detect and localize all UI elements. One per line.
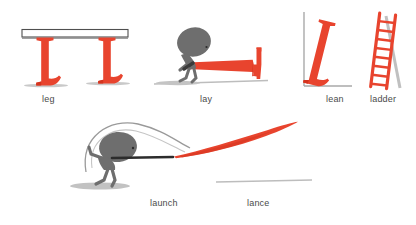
panel-lay: lay (140, 0, 286, 110)
caption-launch: launch (150, 198, 178, 208)
panel-launch-lance: launch lance (40, 110, 416, 225)
panel-lean: lean (286, 0, 356, 110)
caption-lay: lay (200, 94, 212, 104)
lean-illustration (286, 0, 356, 110)
letter-l-leg-left (36, 38, 61, 86)
letter-l-leaning (303, 19, 343, 88)
illustration-canvas: leg (0, 0, 416, 225)
panel-leg: leg (0, 0, 140, 110)
launch-lance-illustration (40, 110, 416, 225)
caption-lance: lance (247, 198, 270, 208)
lay-illustration (140, 0, 286, 110)
caption-leg: leg (42, 94, 55, 104)
letter-l-leg-right (98, 38, 123, 84)
tabletop-icon (22, 30, 128, 39)
lance-ground-line (216, 180, 312, 182)
ladder-icon (371, 13, 396, 88)
figure-pushing-icon (174, 24, 213, 82)
caption-lean: lean (326, 94, 344, 104)
panel-ladder: ladder (356, 0, 416, 110)
caption-ladder: ladder (370, 94, 396, 104)
leg-illustration (0, 0, 140, 110)
lance-projectile-icon (174, 122, 298, 158)
